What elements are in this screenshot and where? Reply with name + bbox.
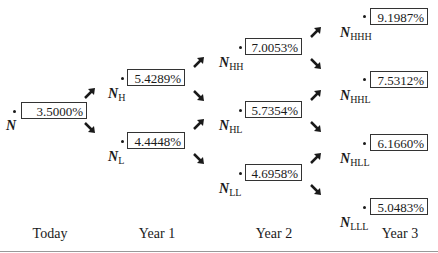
rate-box: 3.5000% xyxy=(21,102,87,119)
rate-box: 5.0483% xyxy=(370,198,428,215)
arrow-down-right-icon xyxy=(84,122,96,134)
node-dot xyxy=(121,77,124,80)
node-label: NHHH xyxy=(340,25,372,42)
node-label: NLLL xyxy=(340,215,368,232)
node-label: NHLL xyxy=(340,151,370,168)
period-label-year-2: Year 2 xyxy=(256,226,292,242)
rate-box: 7.0053% xyxy=(245,38,302,55)
rate-box: 9.1987% xyxy=(370,8,428,25)
arrow-down-right-icon xyxy=(310,58,322,70)
node-dot xyxy=(121,140,124,143)
node-dot xyxy=(13,110,16,113)
node-label: NHH xyxy=(219,55,244,72)
period-label-year-3: Year 3 xyxy=(382,226,418,242)
rate-box: 6.1660% xyxy=(370,134,428,151)
arrow-up-right-icon xyxy=(310,26,322,38)
node-dot xyxy=(363,78,366,81)
node-label: NLL xyxy=(219,181,241,198)
node-dot xyxy=(363,206,366,209)
rate-box: 5.7354% xyxy=(245,101,302,118)
node-label: NHHL xyxy=(340,88,371,105)
divider xyxy=(0,251,438,252)
arrow-up-right-icon xyxy=(193,56,205,68)
rate-box: 4.6958% xyxy=(245,164,302,181)
arrow-up-right-icon xyxy=(84,87,96,99)
arrow-down-right-icon xyxy=(310,121,322,133)
node-label: NH xyxy=(108,86,125,103)
node-dot xyxy=(239,172,242,175)
rate-box: 7.5312% xyxy=(370,71,428,88)
rate-box: 5.4289% xyxy=(127,69,185,86)
node-dot xyxy=(363,15,366,18)
node-label: N xyxy=(6,118,16,135)
node-label: NHL xyxy=(219,118,242,135)
node-dot xyxy=(239,46,242,49)
arrow-up-right-icon xyxy=(310,89,322,101)
arrow-down-right-icon xyxy=(193,153,205,165)
node-label: NL xyxy=(108,149,124,166)
rate-box: 4.4448% xyxy=(127,132,185,149)
period-label-today: Today xyxy=(33,226,68,242)
node-dot xyxy=(363,142,366,145)
node-dot xyxy=(239,109,242,112)
period-label-year-1: Year 1 xyxy=(139,226,175,242)
arrow-up-right-icon xyxy=(193,118,205,130)
arrow-up-right-icon xyxy=(310,152,322,164)
arrow-down-right-icon xyxy=(310,184,322,196)
arrow-down-right-icon xyxy=(193,90,205,102)
